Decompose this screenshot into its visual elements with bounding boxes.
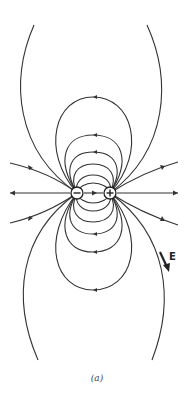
field-label: E xyxy=(169,251,176,262)
lower-loops xyxy=(56,193,132,290)
figure-caption: (a) xyxy=(0,373,194,383)
upper-loops xyxy=(56,97,132,193)
negative-charge xyxy=(71,187,83,199)
axis-field-lines xyxy=(10,191,178,196)
positive-charge xyxy=(104,187,116,199)
dipole-field-diagram xyxy=(0,0,194,393)
